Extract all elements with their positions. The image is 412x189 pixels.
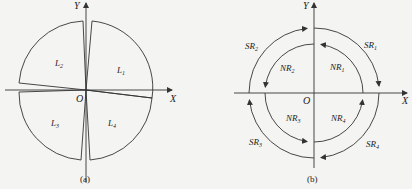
label-nr3: NR3 xyxy=(285,113,301,124)
label-nr4: NR4 xyxy=(330,113,346,124)
origin-label-a: O xyxy=(76,93,83,104)
region-label-l4: L4 xyxy=(107,118,116,129)
sector-l2 xyxy=(19,21,86,90)
axis-label-y-a: Y xyxy=(74,0,81,11)
figure-a: Y X O L1 L2 L3 L4 (a) xyxy=(5,0,177,184)
caption-a: (a) xyxy=(80,174,90,184)
label-nr1: NR1 xyxy=(329,62,345,73)
axis-label-x-a: X xyxy=(169,93,177,104)
label-sr3: SR3 xyxy=(249,137,262,148)
label-sr2: SR2 xyxy=(245,41,258,52)
sector-l4 xyxy=(86,90,152,160)
caption-b: (b) xyxy=(307,174,318,184)
arc-sr1 xyxy=(314,28,379,86)
region-label-l2: L2 xyxy=(54,58,63,69)
origin-label-b: O xyxy=(303,95,310,106)
label-sr4: SR4 xyxy=(366,139,379,150)
sector-l1 xyxy=(86,21,153,98)
arc-sr2 xyxy=(249,28,307,93)
figure-canvas: Y X O L1 L2 L3 L4 (a) xyxy=(0,0,412,189)
axis-label-y-b: Y xyxy=(303,0,310,11)
axis-label-x-b: X xyxy=(401,95,409,106)
figure-b: Y X O SR1 SR2 SR3 SR4 NR1 NR2 NR3 NR4 (b… xyxy=(234,0,409,184)
region-label-l3: L3 xyxy=(50,118,59,129)
arc-sr3 xyxy=(249,100,314,158)
region-label-l1: L1 xyxy=(116,65,125,76)
label-sr1: SR1 xyxy=(364,40,377,51)
label-nr2: NR2 xyxy=(279,63,295,74)
